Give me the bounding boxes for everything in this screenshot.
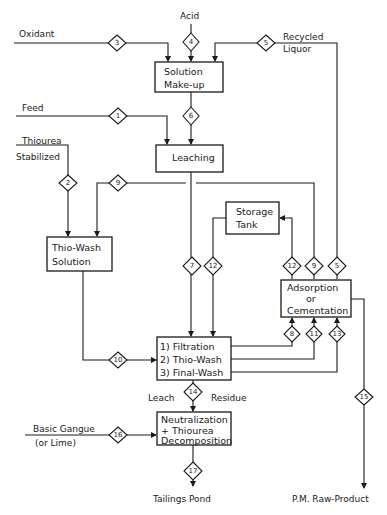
svg-text:14: 14 bbox=[189, 388, 198, 396]
stream-10-line bbox=[83, 271, 156, 360]
leach-label: Leach bbox=[148, 393, 175, 403]
svg-text:or: or bbox=[306, 293, 316, 304]
stream-15-marker: 15 bbox=[355, 389, 373, 405]
stream-1-marker: 1 bbox=[109, 108, 127, 124]
svg-text:Storage: Storage bbox=[236, 206, 273, 217]
thiourea-label: Thiourea bbox=[21, 136, 61, 146]
recycled-label: Recycled bbox=[283, 32, 323, 42]
svg-text:10: 10 bbox=[114, 356, 123, 364]
svg-text:Neutralization: Neutralization bbox=[161, 414, 228, 425]
svg-text:6: 6 bbox=[189, 112, 194, 120]
stream-12b-marker: 12 bbox=[283, 257, 301, 275]
svg-text:3) Final-Wash: 3) Final-Wash bbox=[160, 367, 223, 378]
stream-8-marker: 8 bbox=[284, 326, 300, 342]
svg-text:12: 12 bbox=[288, 262, 297, 270]
stream-3-marker: 3 bbox=[108, 35, 126, 51]
stream-11-marker: 11 bbox=[306, 326, 322, 342]
svg-text:13: 13 bbox=[333, 330, 342, 338]
stream-6-marker: 6 bbox=[183, 107, 199, 125]
svg-text:3: 3 bbox=[115, 39, 119, 47]
stream-12a-marker: 12 bbox=[204, 257, 222, 275]
stream-13-line bbox=[231, 318, 337, 372]
svg-text:Decomposition: Decomposition bbox=[161, 435, 232, 446]
stream-5b-marker: 5 bbox=[328, 257, 346, 275]
svg-text:1: 1 bbox=[116, 112, 120, 120]
svg-text:Adsorption: Adsorption bbox=[287, 282, 338, 293]
svg-text:15: 15 bbox=[360, 393, 369, 401]
svg-text:4: 4 bbox=[189, 38, 194, 46]
liquor-label: Liquor bbox=[283, 44, 311, 54]
stream-9-line-b bbox=[97, 183, 186, 236]
tailings-pond-label: Tailings Pond bbox=[152, 494, 211, 504]
stream-17-marker: 17 bbox=[184, 462, 202, 480]
oxidant-line bbox=[14, 43, 168, 61]
svg-text:7: 7 bbox=[190, 262, 194, 270]
svg-text:Thio-Wash: Thio-Wash bbox=[51, 242, 101, 253]
svg-text:Cementation: Cementation bbox=[287, 305, 348, 316]
svg-text:2: 2 bbox=[66, 179, 70, 187]
svg-text:1) Filtration: 1) Filtration bbox=[160, 341, 214, 352]
process-flowsheet: Solution Make-up Leaching Thio-Wash Solu… bbox=[0, 0, 387, 515]
svg-text:Leaching: Leaching bbox=[172, 152, 215, 163]
stream-9b-marker: 9 bbox=[305, 257, 323, 275]
storage-tank-unit: Storage Tank bbox=[226, 202, 279, 234]
residue-label: Residue bbox=[211, 393, 247, 403]
recycled-liquor-line bbox=[215, 43, 337, 279]
svg-text:9: 9 bbox=[312, 262, 316, 270]
stream-11-line bbox=[231, 318, 314, 359]
pm-raw-product-label: P.M. Raw-Product bbox=[292, 494, 369, 504]
neutralization-unit: Neutralization + Thiourea Decomposition bbox=[157, 412, 232, 446]
basic-gangue-label: Basic Gangue bbox=[33, 424, 95, 434]
stream-13-marker: 13 bbox=[329, 326, 345, 342]
solution-makeup-unit: Solution Make-up bbox=[155, 62, 223, 92]
oxidant-label: Oxidant bbox=[19, 29, 55, 39]
svg-text:2) Thio-Wash: 2) Thio-Wash bbox=[160, 354, 222, 365]
stream-2-marker: 2 bbox=[59, 175, 77, 191]
thio-wash-solution-unit: Thio-Wash Solution bbox=[47, 237, 112, 271]
svg-text:Tank: Tank bbox=[235, 219, 258, 230]
stabilized-label: Stabilized bbox=[16, 152, 60, 162]
stream-8-line bbox=[231, 318, 292, 346]
svg-text:8: 8 bbox=[290, 330, 294, 338]
or-lime-label: (or Lime) bbox=[35, 438, 76, 448]
adsorption-cementation-unit: Adsorption or Cementation bbox=[281, 280, 351, 317]
svg-text:Make-up: Make-up bbox=[164, 79, 205, 90]
stream-12-line bbox=[213, 218, 226, 336]
svg-text:11: 11 bbox=[310, 330, 319, 338]
stream-14-marker: 14 bbox=[184, 383, 202, 401]
stream-4-marker: 4 bbox=[183, 33, 199, 51]
svg-text:5: 5 bbox=[335, 262, 339, 270]
svg-text:12: 12 bbox=[209, 262, 218, 270]
svg-text:Solution: Solution bbox=[52, 256, 91, 267]
svg-text:16: 16 bbox=[114, 431, 123, 439]
stream-5a-marker: 5 bbox=[257, 35, 275, 51]
acid-label: Acid bbox=[180, 11, 199, 21]
leaching-unit: Leaching bbox=[156, 145, 223, 172]
stream-9a-marker: 9 bbox=[109, 175, 127, 191]
svg-text:9: 9 bbox=[116, 179, 120, 187]
stream-10-marker: 10 bbox=[109, 352, 127, 368]
filtration-wash-unit: 1) Filtration 2) Thio-Wash 3) Final-Wash bbox=[157, 337, 231, 380]
stream-16-marker: 16 bbox=[109, 427, 127, 443]
feed-label: Feed bbox=[22, 103, 43, 113]
svg-text:Solution: Solution bbox=[164, 66, 203, 77]
svg-text:17: 17 bbox=[189, 467, 198, 475]
stream-7-marker: 7 bbox=[183, 257, 201, 275]
svg-text:5: 5 bbox=[264, 39, 268, 47]
